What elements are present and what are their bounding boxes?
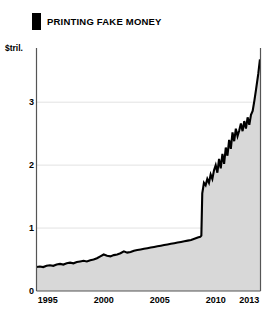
x-axis-tick-labels: 19952000200520102013 <box>0 296 274 316</box>
chart-plot-area <box>0 0 274 324</box>
chart-area-fill <box>37 59 260 291</box>
x-axis-tick-label: 2013 <box>239 296 259 305</box>
chart-container: PRINTING FAKE MONEY $tril. 0123 19952000… <box>0 0 274 324</box>
x-axis-tick-label: 2000 <box>94 296 114 305</box>
x-axis-tick-label: 2005 <box>150 296 170 305</box>
y-axis-tick-label: 0 <box>8 287 34 296</box>
y-axis-tick-label: 2 <box>8 161 34 170</box>
y-axis-tick-label: 1 <box>8 224 34 233</box>
y-axis-tick-label: 3 <box>8 98 34 107</box>
x-axis-tick-label: 2010 <box>206 296 226 305</box>
x-axis-tick-label: 1995 <box>38 296 58 305</box>
y-axis-tick-labels: 0123 <box>0 0 34 324</box>
